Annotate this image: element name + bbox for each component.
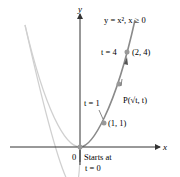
point-1-1 <box>102 121 107 126</box>
origin-label: 0 <box>72 152 76 162</box>
point-2-4-label: (2, 4) <box>132 47 151 57</box>
start-label-2: t = 0 <box>85 163 101 173</box>
point-1-1-label: (1, 1) <box>108 118 127 128</box>
point-2-4 <box>125 50 130 55</box>
x-axis-label: x <box>162 142 167 152</box>
t4-label: t = 4 <box>101 47 117 57</box>
curve-label: y = x², x ≥ 0 <box>104 15 146 25</box>
param-point-label: P(√t, t) <box>123 95 147 105</box>
start-label-1: Starts at <box>84 152 112 162</box>
t1-label: t = 1 <box>84 98 100 108</box>
y-axis-label: y <box>77 4 82 14</box>
origin-point <box>78 145 83 150</box>
parametric-curve-diagram: y x y = x², x ≥ 0 t = 4 (2, 4) P(√t, t) … <box>0 0 180 177</box>
